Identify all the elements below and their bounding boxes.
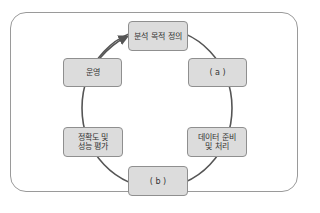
node-data-preparation: 데이터 준비 및 처리 [187,127,247,157]
node-a-placeholder: ( a ) [188,58,247,87]
node-define-objective: 분석 목적 정의 [128,21,188,51]
arrow-operate-to-define [100,37,126,58]
node-accuracy-evaluation: 정확도 및 성능 평가 [63,127,123,157]
node-b-placeholder: ( b ) [128,166,188,196]
node-operation: 운영 [63,58,122,87]
